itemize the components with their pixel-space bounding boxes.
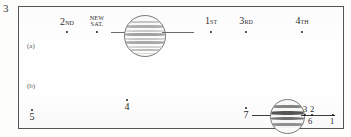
tick-label-3: 3 bbox=[303, 105, 307, 114]
panel-label-a: (a) bbox=[27, 43, 35, 50]
mark-7-label: 7 bbox=[241, 110, 251, 120]
satellite-new-label: NEW SAT. bbox=[90, 15, 105, 28]
mark-7: 7 bbox=[241, 107, 251, 120]
satellite-1st-label: 1ST bbox=[205, 16, 217, 26]
tick-label-1: 1 bbox=[330, 117, 334, 126]
satellite-4th-label: 4TH bbox=[295, 16, 308, 26]
satellite-2nd-dot bbox=[66, 31, 68, 33]
panel-label-b: (b) bbox=[27, 83, 35, 90]
mark-4-label: 4 bbox=[122, 102, 132, 112]
tick-dot-3 bbox=[304, 114, 306, 116]
satellite-4th-dot bbox=[301, 31, 303, 33]
trace-line-a-right bbox=[162, 32, 194, 33]
jupiter-disk-a bbox=[124, 15, 166, 57]
figure-number: 3 bbox=[3, 3, 9, 14]
panel-divider bbox=[19, 67, 343, 68]
mark-4: 4 bbox=[122, 99, 132, 112]
figure-plate: 3 (a) 2ND NEW SAT. bbox=[0, 0, 351, 137]
satellite-1st-dot bbox=[210, 31, 212, 33]
satellite-new-dot bbox=[96, 31, 98, 33]
mark-5-label: 5 bbox=[27, 112, 37, 122]
tick-label-6: 6 bbox=[308, 117, 312, 126]
satellite-3rd-label: 3RD bbox=[239, 16, 253, 26]
satellite-2nd-label: 2ND bbox=[60, 17, 74, 27]
jupiter-disk-b bbox=[270, 99, 305, 134]
figure-frame: (a) 2ND NEW SAT. bbox=[18, 6, 344, 129]
tick-label-2: 2 bbox=[310, 105, 314, 114]
satellite-3rd-dot bbox=[245, 31, 247, 33]
mark-5: 5 bbox=[27, 109, 37, 122]
